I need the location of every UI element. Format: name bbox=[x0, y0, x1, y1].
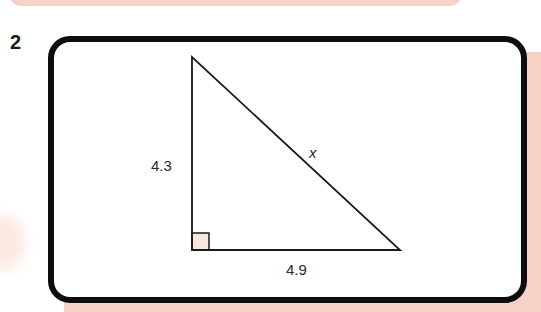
vertical-side-label: 4.3 bbox=[151, 157, 172, 174]
horizontal-side-label: 4.9 bbox=[286, 261, 307, 278]
triangle-outline bbox=[192, 57, 400, 250]
right-triangle-diagram: 4.3 x 4.9 bbox=[0, 0, 541, 312]
right-angle-marker bbox=[192, 233, 209, 250]
hypotenuse-label: x bbox=[308, 144, 317, 161]
